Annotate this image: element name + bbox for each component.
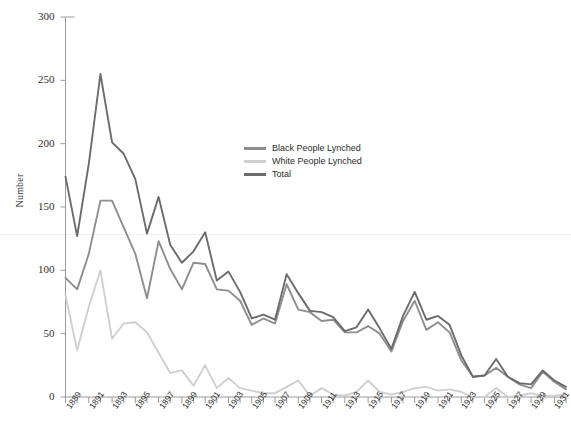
legend-label-black-people-lynched: Black People Lynched	[272, 142, 361, 155]
legend-swatch-white-people-lynched	[244, 160, 266, 163]
legend-label-total: Total	[272, 168, 291, 181]
lynching-statistics-line-chart: Number 050100150200250300 18891891189318…	[0, 0, 571, 443]
plot-area	[0, 0, 571, 443]
legend-item-white-people-lynched: White People Lynched	[244, 155, 362, 168]
chart-legend: Black People Lynched White People Lynche…	[244, 142, 362, 181]
legend-item-total: Total	[244, 168, 362, 181]
legend-label-white-people-lynched: White People Lynched	[272, 155, 362, 168]
legend-swatch-black-people-lynched	[244, 147, 266, 150]
legend-swatch-total	[244, 173, 266, 176]
legend-item-black-people-lynched: Black People Lynched	[244, 142, 362, 155]
